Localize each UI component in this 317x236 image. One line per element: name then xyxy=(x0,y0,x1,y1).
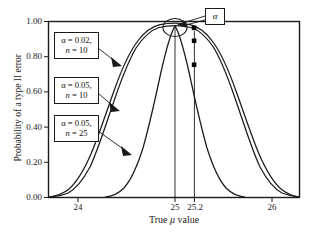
callout-alpha-0-02-n-10: α = 0.02, n = 10 xyxy=(54,32,99,59)
callout-1-line-1: α = 0.02, xyxy=(59,35,94,45)
callout-alpha-0-05-n-10: α = 0.05, n = 10 xyxy=(54,77,99,104)
y-tick-label-0-00: 0.00 xyxy=(14,193,42,202)
chart-canvas xyxy=(0,0,317,236)
marker-curve2-at-25-2 xyxy=(192,39,197,44)
beta-error-curve-figure: 1.00 0.80 0.60 0.40 0.20 0.00 24 25 25.2… xyxy=(0,0,317,236)
callout-3-line-2: n = 25 xyxy=(59,128,94,138)
alpha-annotation-label: α xyxy=(213,11,218,21)
alpha-annotation-box: α xyxy=(205,8,225,25)
x-tick-label-25-2: 25.2 xyxy=(181,203,209,212)
callout-2-n-value: = 10 xyxy=(70,90,88,100)
callout-alpha-0-05-n-25: α = 0.05, n = 25 xyxy=(54,115,99,142)
callout-1-line-2: n = 10 xyxy=(59,45,94,55)
callout-2-line-2: n = 10 xyxy=(59,90,94,100)
marker-curve1-at-25-2 xyxy=(192,26,197,31)
callout-3-line-1: α = 0.05, xyxy=(59,118,94,128)
x-axis-title-post: value xyxy=(175,214,199,225)
x-axis-title-pre: True xyxy=(149,214,170,225)
callout-1-n-value: = 10 xyxy=(70,45,88,55)
marker-curve3-at-25-2 xyxy=(192,63,197,68)
x-tick-label-26: 26 xyxy=(258,203,286,212)
callout-2-line-1: α = 0.05, xyxy=(59,80,94,90)
x-axis-title: True μ value xyxy=(48,215,300,225)
y-axis-title: Probability of a type II error xyxy=(14,33,24,183)
callout-3-n-value: = 25 xyxy=(70,128,88,138)
y-tick-label-1-00: 1.00 xyxy=(14,17,42,26)
x-tick-label-24: 24 xyxy=(64,203,92,212)
